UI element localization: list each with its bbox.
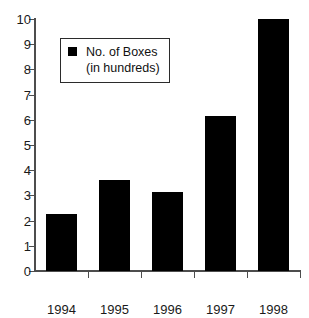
y-tick-label: 4 xyxy=(24,164,31,177)
y-tick-label: 8 xyxy=(24,63,31,76)
bar-chart: 012345678910 19941995199619971998 No. of… xyxy=(0,0,309,318)
bar xyxy=(99,180,131,271)
legend-label-line2: (in hundreds) xyxy=(86,60,160,76)
x-tick-mark xyxy=(247,271,248,278)
y-tick-label: 3 xyxy=(24,189,31,202)
y-tick-label: 10 xyxy=(17,13,31,26)
legend-square-icon xyxy=(68,47,77,56)
y-tick-label: 7 xyxy=(24,88,31,101)
x-tick-label: 1994 xyxy=(47,303,76,316)
bar xyxy=(258,19,290,271)
x-tick-mark xyxy=(88,271,89,278)
x-tick-mark xyxy=(194,271,195,278)
x-tick-mark xyxy=(141,271,142,278)
y-tick-label: 6 xyxy=(24,113,31,126)
bar xyxy=(152,192,184,271)
legend-label: No. of Boxes (in hundreds) xyxy=(86,44,160,76)
y-tick-label: 5 xyxy=(24,139,31,152)
x-tick-label: 1995 xyxy=(100,303,129,316)
y-tick-label: 2 xyxy=(24,214,31,227)
chart-legend: No. of Boxes (in hundreds) xyxy=(60,38,170,83)
y-tick-label: 1 xyxy=(24,239,31,252)
x-tick-label: 1997 xyxy=(206,303,235,316)
y-tick-label: 9 xyxy=(24,38,31,51)
legend-label-line1: No. of Boxes xyxy=(86,44,160,60)
x-tick-label: 1996 xyxy=(153,303,182,316)
x-tick-label: 1998 xyxy=(259,303,288,316)
bar xyxy=(46,214,78,271)
y-tick-label: 0 xyxy=(24,265,31,278)
x-tick-mark xyxy=(300,271,301,278)
bar xyxy=(205,116,237,271)
